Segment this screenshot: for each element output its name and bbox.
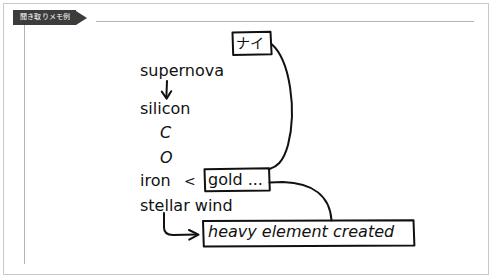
- box-label-nai: ナイ: [236, 36, 264, 50]
- screenshot-root: 聞き取りメモ例 supernova silicon C O iron < ste…: [0, 0, 492, 278]
- section-tab-arrow-icon: [76, 11, 87, 25]
- note-silicon: silicon: [140, 101, 190, 117]
- section-tab-label: 聞き取りメモ例: [20, 14, 70, 21]
- note-iron: iron: [140, 173, 171, 189]
- section-vertical-rule: [24, 21, 25, 264]
- box-label-heavy-element-created: heavy element created: [208, 224, 394, 240]
- note-stellar-wind: stellar wind: [140, 198, 233, 214]
- note-less-than-symbol: <: [184, 174, 196, 188]
- note-carbon: C: [160, 125, 171, 141]
- section-header-rule: [96, 21, 474, 22]
- section-tab[interactable]: 聞き取りメモ例: [13, 10, 87, 25]
- box-label-gold: gold ...: [208, 172, 263, 188]
- section-tab-body: 聞き取りメモ例: [13, 10, 76, 25]
- note-supernova: supernova: [140, 63, 224, 79]
- note-oxygen: O: [160, 150, 173, 166]
